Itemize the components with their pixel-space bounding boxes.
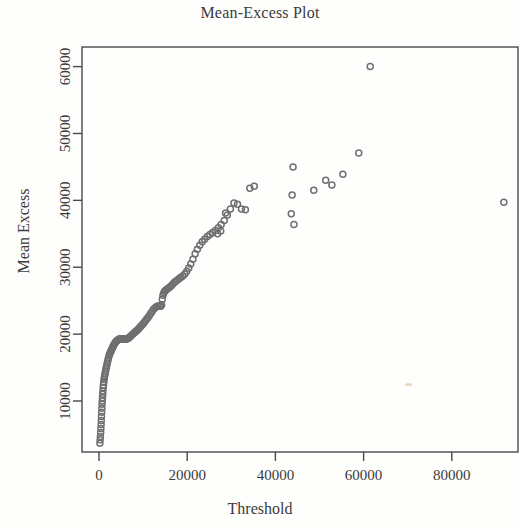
x-tick-label: 80000 bbox=[433, 467, 471, 483]
data-point-marker bbox=[323, 177, 329, 183]
data-point-marker bbox=[290, 164, 296, 170]
data-point-marker bbox=[501, 199, 507, 205]
scatter-plot-canvas: 020000400006000080000 100002000030000400… bbox=[0, 0, 520, 528]
x-tick-label: 40000 bbox=[257, 467, 295, 483]
y-tick-label: 60000 bbox=[57, 48, 73, 86]
x-tick-label: 20000 bbox=[168, 467, 206, 483]
data-points bbox=[97, 64, 507, 447]
plot-frame bbox=[82, 47, 518, 452]
y-tick-label: 40000 bbox=[57, 182, 73, 220]
x-tick-label: 0 bbox=[95, 467, 103, 483]
data-point-marker bbox=[311, 187, 317, 193]
data-point-marker bbox=[329, 182, 335, 188]
y-tick-label: 30000 bbox=[57, 248, 73, 286]
y-tick-label: 10000 bbox=[57, 382, 73, 420]
data-point-marker bbox=[242, 207, 248, 213]
data-point-marker bbox=[288, 211, 294, 217]
y-tick-label: 20000 bbox=[57, 315, 73, 353]
data-point-marker bbox=[356, 150, 362, 156]
y-axis-ticks: 100002000030000400005000060000 bbox=[57, 48, 82, 420]
y-tick-label: 50000 bbox=[57, 115, 73, 153]
mean-excess-chart-figure: Mean-Excess Plot Mean Excess Threshold 0… bbox=[0, 0, 520, 528]
data-point-marker bbox=[367, 64, 373, 70]
x-tick-label: 60000 bbox=[345, 467, 383, 483]
data-point-marker bbox=[340, 171, 346, 177]
data-point-marker bbox=[289, 192, 295, 198]
x-axis-ticks: 020000400006000080000 bbox=[95, 452, 470, 483]
data-point-marker bbox=[291, 221, 297, 227]
